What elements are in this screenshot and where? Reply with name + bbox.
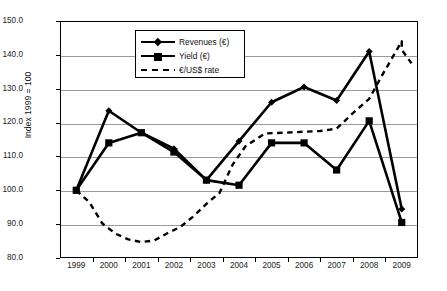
x-tick-mark	[223, 258, 224, 262]
legend-item-eurusd: €/US$ rate	[141, 63, 239, 77]
x-tick-label: 2009	[379, 262, 425, 270]
x-tick-mark	[353, 258, 354, 262]
data-point-marker	[170, 148, 177, 155]
y-tick-label: 140.0	[0, 51, 23, 59]
data-point-marker	[333, 166, 340, 173]
data-point-marker	[203, 177, 210, 184]
x-tick-mark	[385, 258, 386, 262]
legend-label-yield: Yield (€)	[175, 51, 210, 61]
revenues-line-icon	[141, 36, 175, 48]
x-tick-mark	[255, 258, 256, 262]
eurusd-dashed-line-icon	[141, 64, 175, 76]
data-point-marker	[398, 219, 405, 226]
yield-line-icon	[141, 50, 175, 62]
chart-container: Index 1999 = 100 150.0140.0130.0120.0110…	[0, 0, 447, 291]
legend-label-revenues: Revenues (€)	[175, 37, 229, 47]
series-line	[76, 121, 401, 223]
data-point-marker	[366, 117, 373, 124]
legend-item-yield: Yield (€)	[141, 49, 239, 63]
data-point-marker	[138, 129, 145, 136]
chart-legend: Revenues (€) Yield (€) €/US$ rate	[135, 30, 245, 78]
y-tick-label: 100.0	[0, 186, 23, 194]
legend-item-revenues: Revenues (€)	[141, 35, 239, 49]
y-tick-label: 80.0	[0, 254, 23, 262]
data-point-marker	[300, 139, 307, 146]
x-tick-mark	[93, 258, 94, 262]
x-tick-mark	[320, 258, 321, 262]
x-tick-mark	[288, 258, 289, 262]
y-tick-label: 90.0	[0, 220, 23, 228]
y-tick-label: 130.0	[0, 85, 23, 93]
y-tick-label: 110.0	[0, 152, 23, 160]
x-tick-mark	[190, 258, 191, 262]
x-tick-mark	[125, 258, 126, 262]
data-point-marker	[235, 182, 242, 189]
y-tick-label: 120.0	[0, 118, 23, 126]
y-tick-mark	[56, 258, 60, 259]
data-point-marker	[105, 139, 112, 146]
data-point-marker	[268, 139, 275, 146]
x-tick-mark	[158, 258, 159, 262]
legend-label-eurusd: €/US$ rate	[175, 65, 219, 75]
y-axis-label: Index 1999 = 100	[23, 25, 33, 185]
y-tick-label: 150.0	[0, 17, 23, 25]
